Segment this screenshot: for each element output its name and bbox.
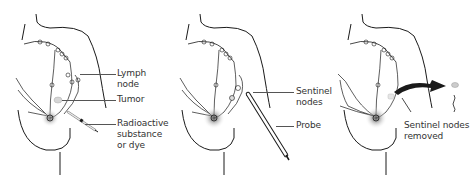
arrow-icon — [394, 80, 446, 95]
panel-probe-detection: Sentinel nodes Probe — [158, 0, 316, 179]
label-tumor: Tumor — [117, 94, 144, 105]
leader-line-lymph-node — [80, 74, 116, 75]
leader-line-radioactive-substance — [85, 124, 116, 125]
panel-injection: Lymph node Tumor Radioactive substance o… — [0, 0, 158, 179]
leader-line-probe — [276, 126, 294, 127]
leader-line-sentinel-nodes — [253, 92, 294, 93]
breast-anatomy-illustration — [158, 0, 316, 179]
panel-nodes-removed: Sentinel nodes removed — [316, 0, 474, 179]
label-sentinel-nodes-removed: Sentinel nodes removed — [404, 120, 469, 142]
breast-anatomy-illustration — [316, 0, 474, 179]
label-lymph-node: Lymph node — [117, 68, 158, 90]
leader-line-tumor — [62, 100, 116, 101]
